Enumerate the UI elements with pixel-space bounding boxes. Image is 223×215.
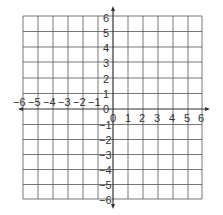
x-label-neg4: −4 [43, 96, 56, 108]
y-axis-up-arrow-icon [111, 6, 115, 11]
x-label-6: 6 [198, 112, 204, 124]
x-label-neg3: −3 [58, 96, 71, 108]
y-label-5: 5 [103, 27, 109, 39]
y-label-neg3: −3 [99, 149, 112, 161]
y-label-neg4: −4 [99, 164, 112, 176]
y-label-0: 0 [103, 103, 109, 115]
y-label-2: 2 [103, 73, 109, 85]
y-label-neg2: −2 [99, 134, 112, 146]
y-label-3: 3 [103, 57, 109, 69]
x-label-neg2: −2 [73, 96, 86, 108]
y-label-4: 4 [103, 42, 109, 54]
x-label-1: 1 [125, 112, 131, 124]
y-label-neg1: −1 [99, 119, 112, 131]
x-label-2: 2 [139, 112, 145, 124]
x-label-neg1: −1 [88, 96, 101, 108]
y-axis-down-arrow-icon [111, 204, 115, 209]
coordinate-plane: −6 −5 −4 −3 −2 −1 0 1 2 3 4 5 6 6 5 4 3 … [0, 0, 223, 215]
x-label-3: 3 [154, 112, 160, 124]
x-label-4: 4 [169, 112, 175, 124]
y-label-6: 6 [103, 12, 109, 24]
x-label-neg6: −6 [13, 96, 26, 108]
y-label-neg5: −5 [99, 179, 112, 191]
x-label-neg5: −5 [28, 96, 41, 108]
y-label-1: 1 [103, 88, 109, 100]
x-label-5: 5 [184, 112, 190, 124]
x-axis-right-arrow-icon [205, 107, 210, 111]
y-label-neg6: −6 [99, 194, 112, 206]
